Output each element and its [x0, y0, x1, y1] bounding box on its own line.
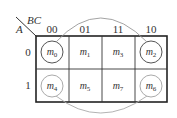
wrap-arc-top	[56, 18, 147, 42]
col-header-00: 00	[47, 23, 59, 35]
col-var-label: BC	[27, 14, 42, 26]
cell-m6: m6	[146, 80, 157, 93]
col-header-01: 01	[80, 23, 91, 35]
cell-m4: m4	[47, 80, 58, 93]
cell-m5: m5	[80, 80, 91, 93]
cell-m3: m3	[113, 46, 124, 59]
row-header-1: 1	[25, 79, 31, 91]
karnaugh-map: BC A 00 01 11 10 0 1 m0 m1 m3 m2 m4 m5 m…	[0, 0, 177, 118]
col-header-11: 11	[113, 23, 124, 35]
cell-m1: m1	[80, 46, 91, 59]
row-header-0: 0	[25, 46, 31, 58]
row-var-label: A	[15, 23, 23, 35]
cell-m0: m0	[47, 46, 58, 59]
col-header-10: 10	[146, 23, 158, 35]
cell-m2: m2	[146, 46, 157, 59]
cell-m7: m7	[113, 80, 124, 93]
wrap-arc-bottom	[56, 96, 147, 113]
